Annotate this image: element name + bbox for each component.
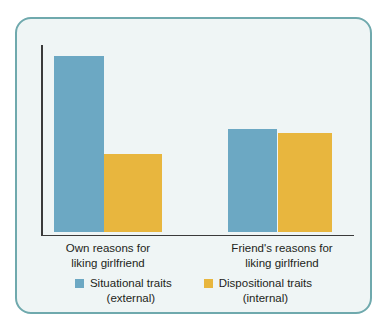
bar-own-situational [54, 56, 104, 232]
legend-label-situational: Situational traits(external) [90, 276, 172, 305]
chart-legend: Situational traits(external) Disposition… [17, 276, 370, 305]
plot-area: Own reasons forliking girlfriend Friend'… [17, 19, 370, 312]
bar-own-dispositional [104, 154, 162, 232]
legend-swatch-situational-icon [75, 279, 84, 288]
x-axis-category-label-friend: Friend's reasons forliking girlfriend [215, 241, 349, 270]
bar-friend-dispositional [278, 133, 332, 232]
chart-figure-frame: Own reasons forliking girlfriend Friend'… [15, 17, 372, 314]
x-axis-category-label-own: Own reasons forliking girlfriend [45, 241, 171, 270]
bar-friend-situational [228, 129, 277, 232]
y-axis-line [41, 45, 43, 236]
legend-label-dispositional: Dispositional traits(internal) [219, 276, 312, 305]
legend-item-dispositional: Dispositional traits(internal) [204, 276, 312, 305]
legend-swatch-dispositional-icon [204, 279, 213, 288]
x-axis-line [41, 235, 354, 237]
legend-item-situational: Situational traits(external) [75, 276, 172, 305]
